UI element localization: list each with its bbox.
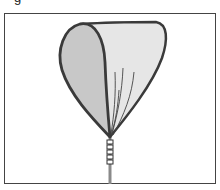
stem (107, 137, 113, 184)
sepal-front (60, 24, 110, 137)
bud-illustration (0, 0, 220, 190)
